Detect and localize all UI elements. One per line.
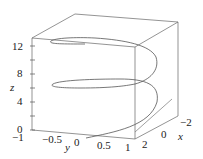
y-tick-neg1: −1 (12, 131, 24, 143)
y-tick-neg05: −0.5 (42, 133, 62, 145)
y-tick-0: 0 (74, 136, 80, 148)
y-axis-label: y (64, 141, 70, 153)
x-tick-2: 2 (142, 138, 148, 150)
plot-box (32, 14, 178, 139)
x-tick-neg2: −2 (180, 116, 192, 128)
z-tick-4: 4 (17, 95, 23, 107)
y-tick-1: 1 (125, 141, 131, 153)
z-tick-8: 8 (17, 67, 23, 79)
z-tick-12: 12 (12, 40, 23, 52)
x-tick-0: 0 (161, 128, 167, 140)
helix-curve (51, 38, 158, 138)
z-axis-ticks (30, 46, 35, 130)
z-axis-label: z (9, 81, 15, 93)
helix-3d-plot: 12 8 4 0 z −1 −0.5 0 0.5 1 y 2 0 −2 x (0, 0, 203, 159)
y-tick-05: 0.5 (97, 139, 111, 151)
x-axis-label: x (177, 130, 183, 142)
